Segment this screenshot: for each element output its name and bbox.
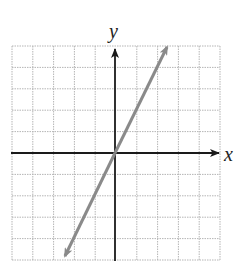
coordinate-graph: y x (0, 0, 235, 261)
x-axis-label: x (223, 143, 233, 165)
y-axis-label: y (107, 20, 118, 43)
plotted-line (115, 47, 167, 153)
plotted-line-lower (65, 153, 115, 256)
